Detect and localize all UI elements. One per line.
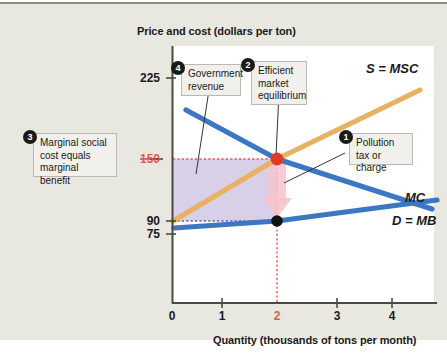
callout-badge-1: 1 [339,130,353,144]
x-tick-label-1: 1 [212,309,232,323]
x-tick-label-4: 4 [382,309,402,323]
callout-badge-2: 2 [241,58,255,72]
unregulated-market-point [271,215,283,227]
callout-badge-4: 4 [171,61,185,75]
callout-pollution-tax: Pollution tax or charge [349,133,413,165]
efficient-equilibrium-point [271,153,284,166]
y-tick-label-75: 75 [126,227,160,241]
x-tick-label-0: 0 [162,309,182,323]
callout-efficient-market-equilibrium: Efficient market equilibrium [251,61,307,105]
x-axis-title: Quantity (thousands of tons per month) [213,334,416,346]
figure-root: Price and cost (dollars per ton) Quantit… [0,0,447,359]
callout-badge-3: 3 [23,130,37,144]
y-tick-label-90: 90 [126,214,160,228]
y-tick-label-150: 150 [126,152,160,166]
curve-label-mc: MC [405,190,425,205]
y-tick-label-225: 225 [126,71,160,85]
curve-label-dmb: D = MB [392,213,436,228]
callout-government-revenue: Government revenue [181,64,241,96]
curve-label-msc: S = MSC [366,61,418,76]
x-tick-label-2: 2 [267,309,287,323]
x-tick-label-3: 3 [327,309,347,323]
callout-marginal-social-cost: Marginal social cost equals marginal ben… [33,133,117,177]
y-axis-title: Price and cost (dollars per ton) [137,25,296,37]
